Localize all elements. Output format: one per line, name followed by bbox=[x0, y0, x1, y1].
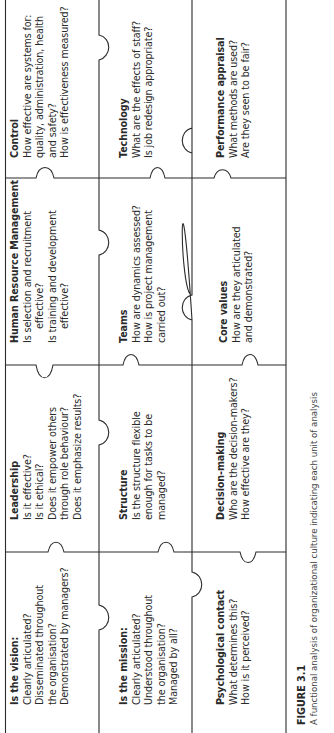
cell-title: Control bbox=[9, 6, 22, 158]
cell-line: effective? bbox=[59, 180, 72, 343]
cell-line: Is it ethical? bbox=[34, 394, 47, 520]
cell-hrm: Human Resource Management Is selection a… bbox=[9, 180, 72, 343]
cell-line: Are they seen to be fair? bbox=[240, 37, 253, 158]
cell-line: How effective are systems for: bbox=[22, 6, 35, 158]
cell-teams: Teams How are dynamics assessed? How is … bbox=[118, 205, 168, 343]
cell-performance-appraisal: Performance appraisal What methods are u… bbox=[215, 37, 253, 158]
cell-control: Control How effective are systems for: q… bbox=[9, 6, 72, 158]
cell-line: Clearly articulated? bbox=[22, 568, 35, 706]
cell-line: How is it perceived? bbox=[240, 590, 253, 705]
cell-line: What are the effects of staff? bbox=[131, 21, 144, 158]
cell-line: How are dynamics assessed? bbox=[131, 205, 144, 343]
cell-line: Disseminated throughout bbox=[34, 568, 47, 706]
cell-title: Is the vision: bbox=[9, 568, 22, 706]
cell-line: Is selection and recruitment bbox=[22, 180, 35, 343]
cell-title: Leadership bbox=[9, 394, 22, 520]
cell-line: Is job redesign appropriate? bbox=[143, 21, 156, 158]
cell-line: How is effectiveness measured? bbox=[59, 6, 72, 158]
cell-title: Technology bbox=[118, 21, 131, 158]
cell-mission: Is the mission: Clearly articulated? Und… bbox=[118, 595, 181, 705]
cell-line: the organisation? bbox=[47, 568, 60, 706]
cell-structure: Structure Is the structure flexible enou… bbox=[118, 411, 168, 520]
cell-decision-making: Decision-making Who are the decision-mak… bbox=[215, 378, 253, 520]
cell-vision: Is the vision: Clearly articulated? Diss… bbox=[9, 568, 72, 706]
cell-line: enough for tasks to be bbox=[143, 411, 156, 520]
figure-label: FIGURE 3.1 bbox=[296, 665, 307, 725]
cell-line: Managed by all? bbox=[168, 595, 181, 705]
cell-line: managed? bbox=[156, 411, 169, 520]
cell-line: Is it effective? bbox=[22, 394, 35, 520]
cell-line: How is project management bbox=[143, 205, 156, 343]
cell-line: Demonstrated by managers? bbox=[59, 568, 72, 706]
cell-title: Structure bbox=[118, 411, 131, 520]
cell-line: How effective are they? bbox=[240, 378, 253, 520]
cell-title: Performance appraisal bbox=[215, 37, 228, 158]
cell-line: through role behaviour? bbox=[59, 394, 72, 520]
figure-caption: A functional analysis of organizational … bbox=[309, 392, 319, 725]
cell-title: Core values bbox=[218, 226, 231, 343]
cell-title: Decision-making bbox=[215, 378, 228, 520]
cell-line: What determines this? bbox=[228, 590, 241, 705]
cell-line: Does it emphasize results? bbox=[72, 394, 85, 520]
cell-line: carried out? bbox=[156, 205, 169, 343]
cell-leadership: Leadership Is it effective? Is it ethica… bbox=[9, 394, 85, 520]
cell-psychological-contact: Psychological contact What determines th… bbox=[215, 590, 253, 705]
cell-line: What methods are used? bbox=[228, 37, 241, 158]
cell-title: Psychological contact bbox=[215, 590, 228, 705]
cell-line: and safety? bbox=[47, 6, 60, 158]
cell-line: and demonstrated? bbox=[243, 226, 256, 343]
cell-line: Understood throughout bbox=[143, 595, 156, 705]
cell-title: Is the mission: bbox=[118, 595, 131, 705]
cell-line: effective? bbox=[34, 180, 47, 343]
cell-core-values: Core values How are they articulated and… bbox=[218, 226, 256, 343]
cell-technology: Technology What are the effects of staff… bbox=[118, 21, 156, 158]
cell-line: Clearly articulated? bbox=[131, 595, 144, 705]
cell-title: Teams bbox=[118, 205, 131, 343]
cell-line: Is the structure flexible bbox=[131, 411, 144, 520]
cell-line: Is training and development bbox=[47, 180, 60, 343]
cell-line: Does it empower others bbox=[47, 394, 60, 520]
cell-title: Human Resource Management bbox=[9, 180, 22, 343]
diagram-canvas: Is the vision: Clearly articulated? Diss… bbox=[0, 0, 334, 733]
cell-line: quality, administration, health bbox=[34, 6, 47, 158]
cell-line: the organisation? bbox=[156, 595, 169, 705]
cell-line: How are they articulated bbox=[231, 226, 244, 343]
cell-line: Who are the decision-makers? bbox=[228, 378, 241, 520]
